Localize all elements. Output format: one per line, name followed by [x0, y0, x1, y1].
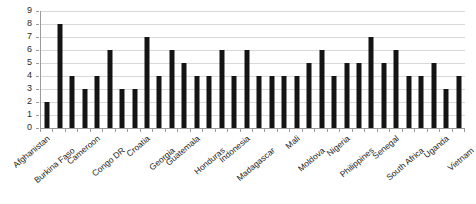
- bar: [257, 76, 262, 128]
- bar-slot: [166, 11, 178, 128]
- bar: [232, 76, 237, 128]
- bar: [207, 76, 212, 128]
- bar-slot: [340, 11, 352, 128]
- bar: [70, 76, 75, 128]
- bars-layer: [41, 11, 465, 128]
- bar: [169, 50, 174, 128]
- bar: [219, 50, 224, 128]
- bar: [332, 76, 337, 128]
- bar-slot: [278, 11, 290, 128]
- bar-slot: [178, 11, 190, 128]
- bar-slot: [428, 11, 440, 128]
- bar: [269, 76, 274, 128]
- bar-slot: [315, 11, 327, 128]
- bar: [132, 89, 137, 128]
- bar-slot: [440, 11, 452, 128]
- bar-slot: [403, 11, 415, 128]
- bar: [282, 76, 287, 128]
- y-tick-mark: [36, 63, 39, 64]
- bar: [419, 76, 424, 128]
- plot-area: [40, 11, 465, 129]
- bar: [107, 50, 112, 128]
- y-tick-label: 7: [27, 32, 32, 41]
- bar: [381, 63, 386, 128]
- bar-slot: [216, 11, 228, 128]
- bar: [431, 63, 436, 128]
- y-tick-mark: [36, 76, 39, 77]
- bar: [344, 63, 349, 128]
- bar-slot: [328, 11, 340, 128]
- bar: [369, 37, 374, 128]
- bar-slot: [191, 11, 203, 128]
- y-tick-label: 2: [27, 97, 32, 106]
- bar: [307, 63, 312, 128]
- bar: [444, 89, 449, 128]
- bar-slot: [203, 11, 215, 128]
- y-tick-label: 4: [27, 71, 32, 80]
- bar-slot: [53, 11, 65, 128]
- bar-slot: [41, 11, 53, 128]
- y-tick-mark: [36, 102, 39, 103]
- y-tick-mark: [36, 50, 39, 51]
- bar-slot: [141, 11, 153, 128]
- bar-slot: [365, 11, 377, 128]
- y-tick-label: 1: [27, 110, 32, 119]
- y-tick-label: 0: [27, 123, 32, 132]
- y-tick-mark: [36, 37, 39, 38]
- bar: [356, 63, 361, 128]
- bar-slot: [390, 11, 402, 128]
- bar-slot: [66, 11, 78, 128]
- y-tick-label: 8: [27, 19, 32, 28]
- bar: [144, 37, 149, 128]
- bar: [57, 24, 62, 128]
- bar: [456, 76, 461, 128]
- bar-slot: [303, 11, 315, 128]
- bar-slot: [228, 11, 240, 128]
- bar-slot: [453, 11, 465, 128]
- bar-slot: [265, 11, 277, 128]
- bar-slot: [116, 11, 128, 128]
- bar-slot: [415, 11, 427, 128]
- bar-slot: [103, 11, 115, 128]
- bar: [406, 76, 411, 128]
- bar: [82, 89, 87, 128]
- bar: [394, 50, 399, 128]
- x-axis-labels: AfghanistanBurkina FasoCameroonCongo DRC…: [0, 132, 472, 204]
- bar-slot: [241, 11, 253, 128]
- y-axis: 0123456789: [0, 0, 36, 140]
- y-tick-mark: [36, 128, 39, 129]
- bar: [194, 76, 199, 128]
- bar: [294, 76, 299, 128]
- bar: [157, 76, 162, 128]
- y-tick-mark: [36, 11, 39, 12]
- bar: [319, 50, 324, 128]
- bar-slot: [353, 11, 365, 128]
- bar-slot: [290, 11, 302, 128]
- y-tick-mark: [36, 89, 39, 90]
- y-tick-label: 9: [27, 6, 32, 15]
- bar-slot: [253, 11, 265, 128]
- bar: [95, 76, 100, 128]
- bar-slot: [78, 11, 90, 128]
- bar: [182, 63, 187, 128]
- bar: [244, 50, 249, 128]
- bar: [120, 89, 125, 128]
- bar: [45, 102, 50, 128]
- y-tick-label: 6: [27, 45, 32, 54]
- bar-slot: [91, 11, 103, 128]
- bar-slot: [378, 11, 390, 128]
- bar-slot: [153, 11, 165, 128]
- y-tick-mark: [36, 115, 39, 116]
- bar-slot: [128, 11, 140, 128]
- y-tick-label: 5: [27, 58, 32, 67]
- y-tick-label: 3: [27, 84, 32, 93]
- y-tick-mark: [36, 24, 39, 25]
